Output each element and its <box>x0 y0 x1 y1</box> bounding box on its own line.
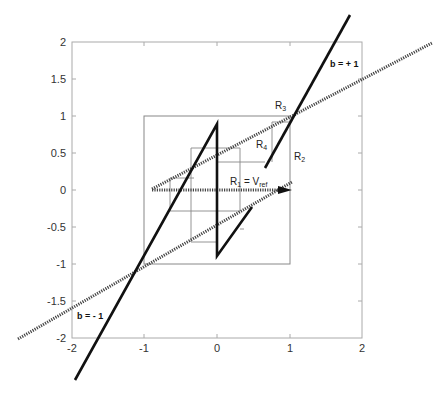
solid-lines <box>75 15 350 380</box>
y-tick: 1.5 <box>51 73 66 85</box>
label-b-plus: b = + 1 <box>330 59 359 69</box>
y-tick: 2 <box>60 36 66 48</box>
x-tick: -2 <box>67 342 77 354</box>
label-r1: R1 = Vref <box>230 176 267 188</box>
y-tick-labels: 2 1.5 1 0.5 0 -0.5 -1 -1.5 -2 <box>47 36 66 344</box>
label-r3: R3 <box>275 100 286 112</box>
diagram-canvas: 2 1.5 1 0.5 0 -0.5 -1 -1.5 -2 -2 -1 0 1 … <box>0 0 434 399</box>
y-tick: -0.5 <box>47 221 66 233</box>
label-r2: R2 <box>294 151 305 163</box>
y-tick: -1 <box>56 258 66 270</box>
x-tick: 0 <box>214 342 220 354</box>
y-tick: 0 <box>60 184 66 196</box>
dashed-lines <box>18 43 432 339</box>
x-tick: 1 <box>287 342 293 354</box>
x-tick-labels: -2 -1 0 1 2 <box>67 342 365 354</box>
y-tick: 0.5 <box>51 147 66 159</box>
y-tick: -1.5 <box>47 295 66 307</box>
label-b-minus: b = - 1 <box>77 311 103 321</box>
x-tick: 2 <box>359 342 365 354</box>
label-r4: R4 <box>256 139 267 151</box>
x-tick: -1 <box>139 342 149 354</box>
y-tick: 1 <box>60 110 66 122</box>
y-tick: -2 <box>56 332 66 344</box>
